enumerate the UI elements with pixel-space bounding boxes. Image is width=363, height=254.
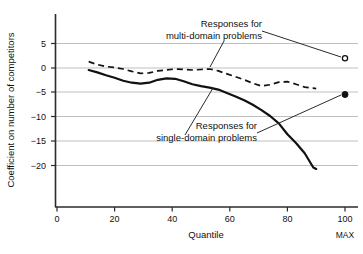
multi-domain-leader-to-curve (210, 41, 224, 67)
multi-domain-leader-to-marker (262, 31, 341, 57)
x-axis-title: Quantile (188, 229, 223, 240)
y-tick-label-5: 5 (41, 39, 46, 49)
chart-canvas: 5 0 −5 −10 −15 −20 0 20 40 60 80 100 Qua… (0, 0, 363, 254)
multi-domain-max-point (342, 56, 347, 61)
series-line-multi-domain (89, 62, 317, 89)
x-tick-label-100: 100 (337, 214, 352, 224)
y-tick-marks (51, 44, 55, 166)
single-domain-annotation-line2: single-domain problems (156, 132, 257, 143)
chart-figure: 5 0 −5 −10 −15 −20 0 20 40 60 80 100 Qua… (0, 0, 363, 254)
single-domain-annotation-line1: Responses for (196, 120, 257, 131)
multi-domain-annotation-line2: multi-domain problems (166, 30, 262, 41)
gridlines (55, 44, 358, 166)
x-tick-marks (57, 207, 345, 212)
x-tick-label-80: 80 (282, 214, 292, 224)
y-tick-label-0: 0 (41, 63, 46, 73)
x-tick-label-60: 60 (225, 214, 235, 224)
y-axis-title: Coefficient on number of competitors (5, 32, 16, 187)
single-domain-leader-to-marker (257, 95, 341, 133)
x-tick-label-0: 0 (54, 214, 59, 224)
y-tick-label-neg5: −5 (36, 87, 46, 97)
y-tick-label-neg10: −10 (31, 112, 46, 122)
x-tick-label-20: 20 (110, 214, 120, 224)
x-tick-label-40: 40 (167, 214, 177, 224)
x-axis-max-label: MAX (336, 230, 355, 240)
y-tick-label-neg20: −20 (31, 161, 46, 171)
multi-domain-annotation-line1: Responses for (201, 18, 262, 29)
y-tick-label-neg15: −15 (31, 136, 46, 146)
single-domain-max-point (342, 92, 348, 98)
